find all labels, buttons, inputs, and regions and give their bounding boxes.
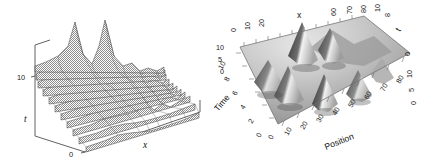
right-timetick-2: 2 [246,117,256,125]
left-axis-label-x: x [142,140,148,150]
right-ttick-8: 8 [383,13,392,17]
right-axis-label-position: Position [323,131,355,152]
right-axis-label-t: t [393,25,403,33]
right-t-axis-labels: 10 8 [373,4,392,17]
left-ytick-10: 10 [17,73,25,82]
right-postick-10: 10 [282,126,294,137]
right-surface-body [236,15,410,126]
right-axis-label-time: Time [214,92,232,113]
right-ttick-10: 10 [373,4,382,12]
left-mesh-surface [35,20,199,152]
right-ztick-0-upper: 0 [403,52,412,56]
figure-container: 10 0 t x [0,0,428,162]
right-left-ztick-10: 10 [216,43,224,52]
right-xtick-0: 0 [229,28,238,32]
right-ztick-10: 10 [405,70,414,78]
right-postick-20: 20 [298,120,310,131]
left-axis-box-top-riser [35,40,50,45]
right-postick-80: 80 [394,74,406,85]
left-surface-panel: 10 0 t x [0,0,214,162]
right-xtick-10: 10 [243,22,252,30]
left-tick-t-0 [81,152,85,153]
right-timetick-6: 6 [230,89,240,97]
right-surface-panel: 0 10 20 60 70 80 x 10 8 t 0 10 5 0 [214,0,428,162]
right-xtick-70: 70 [345,6,354,14]
left-tick-t-10 [31,76,35,77]
right-ztick-5: 5 [407,88,416,92]
right-postick-0: 0 [266,133,276,141]
right-xtick-80: 80 [359,5,368,13]
right-xtick-20: 20 [257,19,266,27]
left-axes-box [31,20,200,153]
left-axis-label-t: t [24,114,27,124]
right-timetick-4: 4 [238,103,248,111]
right-timetick-8: 8 [222,75,232,83]
right-ztick-0: 0 [409,101,418,105]
right-postick-70: 70 [378,82,390,93]
right-surface-svg: 0 10 20 60 70 80 x 10 8 t 0 10 5 0 [214,0,428,162]
right-timetick-0: 0 [254,131,264,139]
left-ytick-0: 0 [69,150,73,159]
right-xtick-60: 60 [329,8,338,16]
right-top-axis-label: x [297,10,302,20]
left-surface-svg: 10 0 t x [0,0,214,162]
